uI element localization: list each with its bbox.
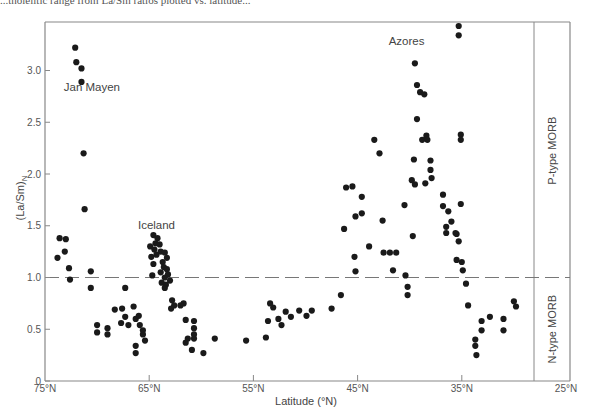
data-point: [387, 250, 393, 256]
data-point: [137, 322, 143, 328]
y-tick-label: 0.5: [27, 324, 41, 335]
data-point: [513, 303, 519, 309]
data-point: [181, 300, 187, 306]
data-point: [167, 278, 173, 284]
data-point: [57, 235, 63, 241]
data-point: [459, 259, 465, 265]
data-point: [390, 267, 396, 273]
data-point: [78, 65, 84, 71]
data-point: [456, 23, 462, 29]
data-point: [157, 241, 163, 247]
data-point: [393, 250, 399, 256]
data-point: [479, 327, 485, 333]
data-point: [133, 350, 139, 356]
y-tick-label: 1.5: [27, 220, 41, 231]
data-point: [104, 325, 110, 331]
side-label-p-type-morb: P-type MORB: [546, 117, 558, 185]
data-point: [456, 238, 462, 244]
data-point: [380, 218, 386, 224]
data-points: [54, 23, 519, 358]
data-point: [185, 336, 191, 342]
data-point: [67, 277, 73, 283]
data-point: [150, 261, 156, 267]
data-point: [142, 338, 148, 344]
region-label-azores: Azores: [389, 35, 425, 47]
x-tick-label: 45°N: [346, 383, 368, 394]
data-point: [309, 308, 315, 314]
data-point: [94, 322, 100, 328]
data-point: [463, 281, 469, 287]
data-point: [104, 331, 110, 337]
data-point: [82, 206, 88, 212]
data-point: [405, 292, 411, 298]
y-tick-label: 0: [35, 376, 41, 387]
data-point: [500, 316, 506, 322]
data-point: [94, 329, 100, 335]
data-point: [452, 230, 458, 236]
region-label-iceland: Iceland: [138, 219, 175, 231]
x-axis: 75°N65°N55°N45°N35°N25°N: [34, 375, 577, 394]
x-tick-label: 25°N: [555, 383, 577, 394]
data-point: [349, 183, 355, 189]
data-point: [263, 334, 269, 340]
data-point: [472, 343, 478, 349]
data-point: [148, 254, 154, 260]
data-point: [288, 314, 294, 320]
data-point: [456, 32, 462, 38]
data-point: [427, 167, 433, 173]
data-point: [165, 271, 171, 277]
data-point: [212, 336, 218, 342]
data-point: [405, 284, 411, 290]
data-point: [429, 175, 435, 181]
data-point: [243, 338, 249, 344]
data-point: [191, 325, 197, 331]
data-point: [164, 255, 170, 261]
data-point: [421, 91, 427, 97]
data-point: [296, 308, 302, 314]
data-point: [473, 352, 479, 358]
data-point: [81, 150, 87, 156]
y-tick-label: 2.5: [27, 117, 41, 128]
y-axis-title: (La/Sm)N: [14, 175, 29, 220]
data-point: [500, 327, 506, 333]
side-label-n-type-morb: N-type MORB: [546, 295, 558, 363]
y-tick-label: 2.0: [27, 169, 41, 180]
data-point: [359, 210, 365, 216]
data-point: [343, 184, 349, 190]
data-point: [479, 318, 485, 324]
axis-labels: Latitude (°N)(La/Sm)N: [14, 175, 337, 407]
data-point: [414, 82, 420, 88]
data-point: [460, 267, 466, 273]
data-point: [131, 303, 137, 309]
data-point: [440, 192, 446, 198]
data-point: [112, 307, 118, 313]
data-point: [122, 285, 128, 291]
data-point: [136, 313, 142, 319]
data-point: [376, 150, 382, 156]
data-point: [140, 331, 146, 337]
data-point: [443, 224, 449, 230]
data-point: [458, 137, 464, 143]
scatter-chart: 75°N65°N55°N45°N35°N25°N 00.51.01.52.02.…: [0, 0, 593, 420]
data-point: [133, 343, 139, 349]
data-point: [487, 314, 493, 320]
data-point: [458, 201, 464, 207]
data-point: [410, 233, 416, 239]
data-point: [440, 203, 446, 209]
data-point: [366, 243, 372, 249]
data-point: [402, 272, 408, 278]
data-point: [88, 268, 94, 274]
data-point: [351, 254, 357, 260]
data-point: [278, 322, 284, 328]
data-point: [341, 226, 347, 232]
data-point: [422, 180, 428, 186]
data-point: [149, 272, 155, 278]
data-point: [303, 313, 309, 319]
data-point: [352, 213, 358, 219]
data-point: [265, 318, 271, 324]
data-point: [72, 45, 78, 51]
data-point: [412, 60, 418, 66]
data-point: [472, 337, 478, 343]
data-point: [329, 306, 335, 312]
side-panels: P-type MORBN-type MORB: [546, 117, 558, 364]
